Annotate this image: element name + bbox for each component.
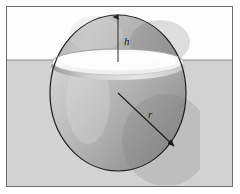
figure-canvas: h r [0, 0, 240, 194]
radius-label-r: r [148, 108, 153, 120]
height-label-h: h [124, 35, 130, 47]
sphere-buoyancy-figure: h r [0, 0, 240, 194]
